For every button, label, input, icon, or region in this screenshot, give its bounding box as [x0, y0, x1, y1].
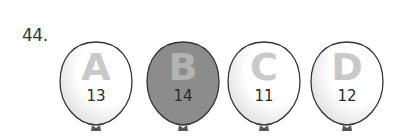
balloon-c[interactable]: C 11 [225, 39, 303, 131]
balloon-number: 13 [57, 87, 135, 105]
balloon-number: 12 [308, 87, 386, 105]
balloon-letter: A [57, 45, 135, 89]
balloon-b[interactable]: B 14 [144, 39, 222, 131]
balloon-letter: D [308, 45, 386, 89]
balloon-letter: B [144, 45, 222, 89]
question-number: 44. [22, 25, 48, 45]
balloon-number: 14 [144, 87, 222, 105]
balloon-number: 11 [225, 87, 303, 105]
balloon-letter: C [225, 45, 303, 89]
balloon-a[interactable]: A 13 [57, 39, 135, 131]
balloon-d[interactable]: D 12 [308, 39, 386, 131]
